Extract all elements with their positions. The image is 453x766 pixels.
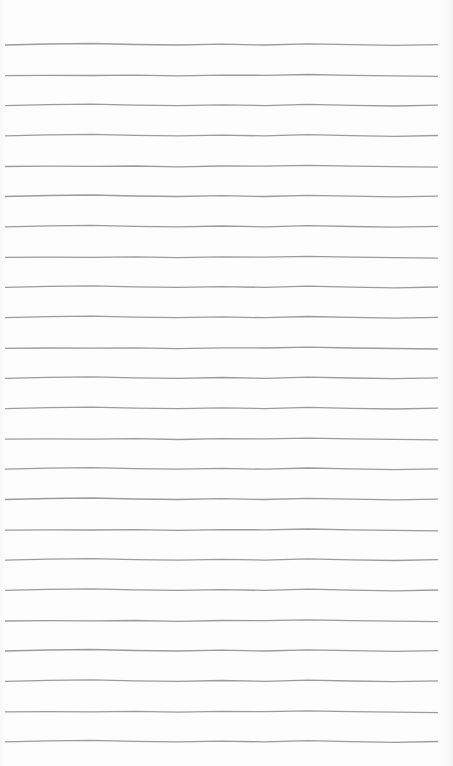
ruled-line — [5, 559, 438, 561]
ruled-line — [5, 650, 438, 652]
ruled-line — [5, 377, 438, 379]
ruled-line — [5, 498, 438, 500]
ruled-line — [5, 225, 438, 227]
ruled-line — [5, 620, 438, 622]
ruled-line — [5, 75, 438, 77]
ruled-line — [5, 740, 438, 742]
ruled-line — [5, 165, 438, 167]
ruled-lines — [0, 0, 453, 766]
ruled-line — [5, 589, 438, 591]
ruled-line — [5, 104, 438, 106]
ruled-line — [5, 468, 438, 470]
ruled-line — [5, 347, 438, 349]
ruled-line — [5, 134, 438, 136]
ruled-line — [5, 680, 438, 682]
ruled-line — [5, 256, 438, 258]
ruled-line — [5, 195, 438, 197]
ruled-line — [5, 44, 438, 46]
ruled-line — [5, 286, 438, 288]
ruled-line — [5, 316, 438, 318]
ruled-line — [5, 711, 438, 713]
ruled-line — [5, 407, 438, 409]
ruled-line — [5, 529, 438, 531]
ruled-line — [5, 438, 438, 440]
lined-paper-sheet — [0, 0, 453, 766]
